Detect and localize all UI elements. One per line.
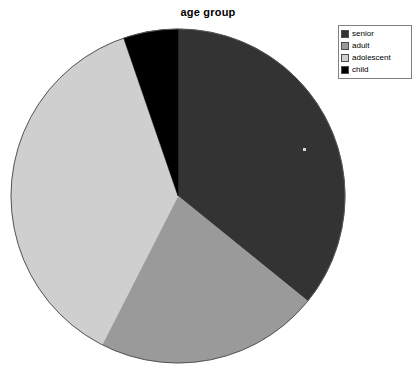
legend-item-label: child: [352, 65, 368, 74]
legend-item-label: senior: [352, 29, 374, 38]
legend-swatch-icon: [341, 42, 349, 50]
legend-item-senior[interactable]: senior: [341, 28, 409, 39]
legend-item-adult[interactable]: adult: [341, 40, 409, 51]
legend-swatch-icon: [341, 54, 349, 62]
legend-item-child[interactable]: child: [341, 64, 409, 75]
legend-swatch-icon: [341, 30, 349, 38]
legend-swatch-icon: [341, 66, 349, 74]
legend-item-adolescent[interactable]: adolescent: [341, 52, 409, 63]
plot-speck: [303, 148, 306, 151]
legend-item-label: adolescent: [352, 53, 391, 62]
pie-chart-figure: age group senioradultadolescentchild: [0, 0, 416, 384]
legend-item-label: adult: [352, 41, 369, 50]
pie-slices-group: [11, 29, 345, 363]
legend: senioradultadolescentchild: [338, 25, 412, 79]
